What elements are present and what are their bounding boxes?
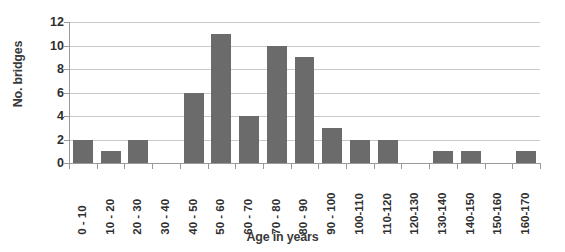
bar-slot: [235, 22, 263, 163]
x-axis-tick: [512, 163, 513, 169]
x-label-slot: 0 - 10: [69, 170, 97, 226]
x-axis-tick-label: 30 - 40: [160, 167, 172, 237]
bars-container: [69, 22, 540, 163]
x-label-slot: 150-160: [485, 170, 513, 226]
x-label-slot: 80 - 90: [291, 170, 319, 226]
bar-slot: [374, 22, 402, 163]
x-label-slot: 140-150: [457, 170, 485, 226]
x-axis-tick: [346, 163, 347, 169]
bar: [516, 151, 536, 163]
x-axis-tick-label: 80 - 90: [299, 167, 311, 237]
bar-slot: [457, 22, 485, 163]
x-axis-tick: [291, 163, 292, 169]
x-axis-tick-label: 110-120: [382, 167, 394, 237]
x-label-slot: 30 - 40: [152, 170, 180, 226]
x-axis-tick: [429, 163, 430, 169]
bar: [461, 151, 481, 163]
bar-slot: [291, 22, 319, 163]
x-axis-tick: [208, 163, 209, 169]
x-axis-tick-label: 130-140: [437, 167, 449, 237]
x-axis-tick: [97, 163, 98, 169]
x-label-slot: 130-140: [429, 170, 457, 226]
bar: [378, 140, 398, 164]
x-axis-tick: [457, 163, 458, 169]
bar: [73, 140, 93, 164]
bar-slot: [346, 22, 374, 163]
x-axis-tick: [318, 163, 319, 169]
y-axis-tick-labels: 024681012: [34, 0, 64, 252]
y-axis-tick-label: 6: [34, 86, 64, 99]
bar: [322, 128, 342, 163]
x-axis-tick-label: 70 - 80: [271, 167, 283, 237]
bar-slot: [263, 22, 291, 163]
x-axis-tick-label: 150-160: [493, 167, 505, 237]
x-axis-tick: [263, 163, 264, 169]
x-label-slot: 120-130: [401, 170, 429, 226]
x-axis-tick: [235, 163, 236, 169]
x-axis-tick: [180, 163, 181, 169]
x-label-slot: 40 - 50: [180, 170, 208, 226]
bar-slot: [124, 22, 152, 163]
x-axis-tick: [540, 163, 541, 169]
bar: [295, 57, 315, 163]
x-axis-tick-label: 120-130: [410, 167, 422, 237]
x-label-slot: 160-170: [512, 170, 540, 226]
x-axis-tick-label: 10 - 20: [105, 167, 117, 237]
x-axis-tick-label: 140-150: [465, 167, 477, 237]
x-axis-tick-label: 50 - 60: [216, 167, 228, 237]
bar-slot: [152, 22, 180, 163]
bar-slot: [429, 22, 457, 163]
bar-slot: [208, 22, 236, 163]
bar-slot: [97, 22, 125, 163]
x-axis-tick: [152, 163, 153, 169]
y-axis-tick-label: 10: [34, 39, 64, 52]
bar-slot: [69, 22, 97, 163]
x-axis-tick-label: 160-170: [520, 167, 532, 237]
x-label-slot: 10 - 20: [97, 170, 125, 226]
x-label-slot: 60 - 70: [235, 170, 263, 226]
x-axis-tick-label: 40 - 50: [188, 167, 200, 237]
y-axis-tick-label: 12: [34, 16, 64, 29]
x-axis-tick: [485, 163, 486, 169]
bar: [350, 140, 370, 164]
bar-slot: [180, 22, 208, 163]
bar-slot: [512, 22, 540, 163]
x-axis-title: Age in years: [0, 230, 565, 244]
bar: [239, 116, 259, 163]
y-axis-tick-label: 8: [34, 63, 64, 76]
x-axis-tick: [69, 163, 70, 169]
bar: [101, 151, 121, 163]
bar: [128, 140, 148, 164]
bar: [184, 93, 204, 164]
bar-slot: [401, 22, 429, 163]
bar: [267, 46, 287, 164]
x-axis-tick-label: 100-110: [354, 167, 366, 237]
x-axis-tick-label: 60 - 70: [243, 167, 255, 237]
y-axis-title: No. bridges: [11, 19, 31, 129]
x-label-slot: 70 - 80: [263, 170, 291, 226]
bar: [211, 34, 231, 163]
bar-slot: [318, 22, 346, 163]
x-label-slot: 110-120: [374, 170, 402, 226]
x-axis-tick-label: 20 - 30: [133, 167, 145, 237]
x-label-slot: 20 - 30: [124, 170, 152, 226]
y-axis-tick-label: 2: [34, 133, 64, 146]
x-label-slot: 100-110: [346, 170, 374, 226]
bar-chart: No. bridges 024681012 0 - 1010 - 2020 - …: [0, 0, 565, 252]
x-label-slot: 50 - 60: [208, 170, 236, 226]
bar-slot: [485, 22, 513, 163]
x-axis-tick-labels: 0 - 1010 - 2020 - 3030 - 4040 - 5050 - 6…: [69, 170, 540, 226]
y-axis-tick-label: 4: [34, 110, 64, 123]
x-axis-tick-label: 0 - 10: [77, 167, 89, 237]
x-axis-tick: [374, 163, 375, 169]
x-label-slot: 90 - 100: [318, 170, 346, 226]
bar: [433, 151, 453, 163]
y-axis-tick-label: 0: [34, 157, 64, 170]
x-axis-tick-label: 90 - 100: [326, 167, 338, 237]
x-axis-tick: [124, 163, 125, 169]
x-axis-tick: [401, 163, 402, 169]
